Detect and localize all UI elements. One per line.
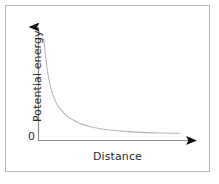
origin-tick-label: 0 (28, 131, 35, 142)
potential-energy-curve (44, 38, 180, 133)
figure-container: Potential energy Distance 0 (0, 0, 219, 184)
y-axis-label: Potential energy (32, 30, 43, 122)
x-axis-label: Distance (93, 151, 142, 162)
